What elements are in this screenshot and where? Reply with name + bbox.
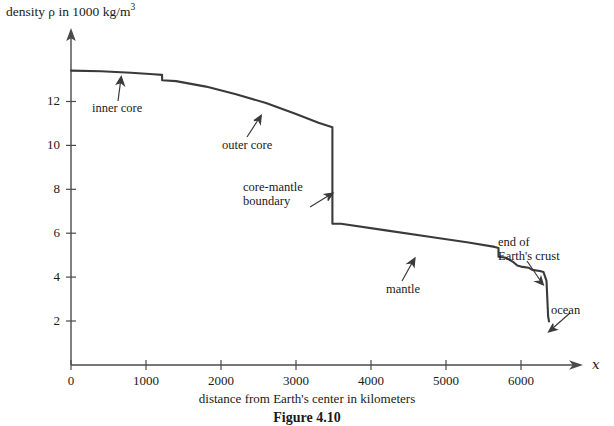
y-tick-label-8: 8 [32,181,60,197]
mantle-arrow [402,258,415,281]
end-of-crust-arrow [527,261,543,285]
y-tick-label-10: 10 [32,137,60,153]
x-axis-variable-label: x [592,356,600,372]
y-tick-label-4: 4 [32,269,60,285]
y-tick-label-12: 12 [32,93,60,109]
annotation-end-of-crust-line1: end of [498,235,560,249]
x-tick-label-0: 0 [41,373,101,389]
core-mantle-boundary-arrow [310,193,333,207]
annotation-core-mantle-boundary-line2: boundary [243,194,303,208]
y-tick-label-6: 6 [32,225,60,241]
annotation-arrows [117,77,570,332]
x-axis [71,360,583,370]
density-curve [71,71,549,322]
x-tick-label-1000: 1000 [116,373,176,389]
annotation-mantle: mantle [386,282,420,296]
annotation-core-mantle-boundary: core-mantle boundary [243,180,303,208]
x-tick-label-2000: 2000 [191,373,251,389]
inner-core-arrow [117,77,125,102]
annotation-end-of-crust: end of Earth's crust [498,235,560,263]
annotation-inner-core: inner core [92,101,142,115]
annotation-end-of-crust-line2: Earth's crust [498,249,560,263]
figure-caption: Figure 4.10 [0,410,614,426]
outer-core-arrow [247,115,261,137]
annotation-outer-core: outer core [222,138,272,152]
x-tick-label-5000: 5000 [416,373,476,389]
x-tick-label-6000: 6000 [491,373,551,389]
y-axis [66,28,76,365]
y-tick-label-2: 2 [32,313,60,329]
annotation-ocean: ocean [551,303,580,317]
x-tick-label-4000: 4000 [341,373,401,389]
x-axis-caption: distance from Earth's center in kilomete… [0,391,614,407]
annotation-core-mantle-boundary-line1: core-mantle [243,180,303,194]
x-tick-label-3000: 3000 [266,373,326,389]
